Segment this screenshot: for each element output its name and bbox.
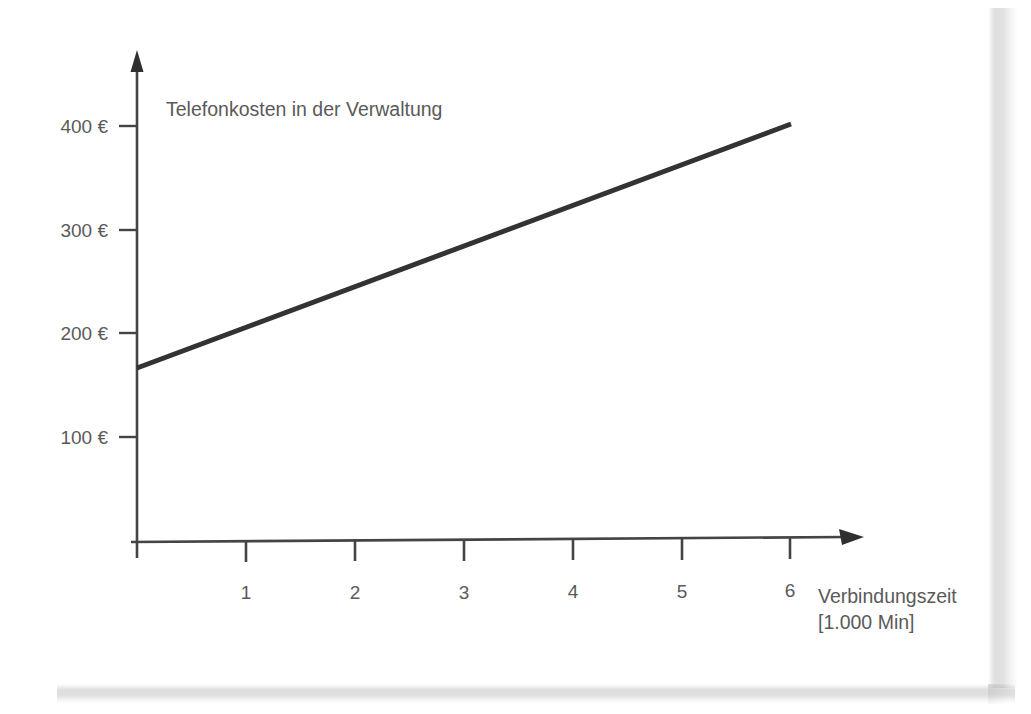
- x-tick-label-6: 6: [770, 581, 810, 600]
- y-tick-label-200: 200 €: [18, 324, 108, 343]
- series-line-telefonkosten: [137, 124, 791, 368]
- y-tick-label-400: 400 €: [18, 117, 108, 136]
- x-tick-label-1: 1: [226, 583, 266, 602]
- chart-title: Telefonkosten in der Verwaltung: [166, 99, 442, 120]
- x-tick-label-3: 3: [444, 583, 484, 602]
- x-axis-arrow-icon: [839, 529, 864, 545]
- line-chart: Telefonkosten in der Verwaltung 400 € 30…: [0, 0, 1031, 714]
- x-axis-line: [131, 537, 846, 542]
- scanned-page: Telefonkosten in der Verwaltung 400 € 30…: [0, 0, 1031, 714]
- x-axis-title: Verbindungszeit [1.000 Min]: [818, 584, 957, 636]
- x-tick-label-5: 5: [662, 582, 702, 601]
- x-tick-label-2: 2: [335, 583, 375, 602]
- x-axis-title-line2: [1.000 Min]: [818, 610, 957, 636]
- x-axis-title-line1: Verbindungszeit: [818, 584, 957, 610]
- y-axis-arrow-icon: [131, 50, 144, 72]
- y-tick-label-300: 300 €: [18, 221, 108, 240]
- x-tick-label-4: 4: [553, 582, 593, 601]
- y-axis-ticks: [119, 126, 137, 437]
- y-tick-label-100: 100 €: [18, 428, 108, 447]
